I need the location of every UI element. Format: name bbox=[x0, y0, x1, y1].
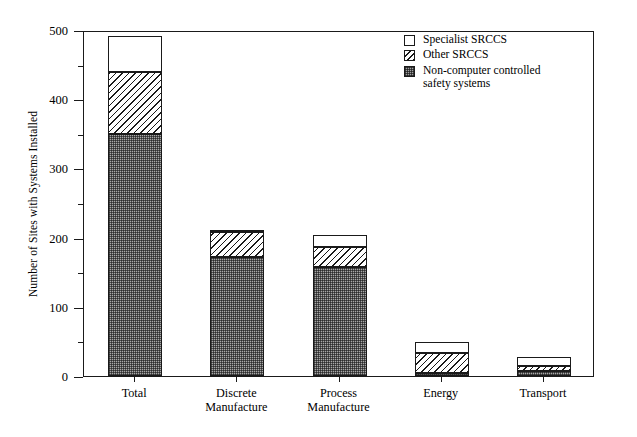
legend-label: Specialist SRCCS bbox=[423, 33, 507, 46]
bar-segment bbox=[415, 373, 469, 376]
legend-label: Non-computer controlled safety systems bbox=[423, 64, 541, 91]
y-axis-tick-label: 500 bbox=[22, 25, 68, 37]
x-axis-tick bbox=[339, 377, 340, 382]
stacked-bar bbox=[415, 342, 469, 376]
x-axis-tick-label: Transport bbox=[478, 386, 608, 400]
white-square-icon bbox=[404, 35, 415, 46]
y-axis-tick-label: 0 bbox=[22, 371, 68, 383]
y-axis-tick-label: 200 bbox=[22, 233, 68, 245]
bar-segment bbox=[517, 366, 571, 371]
y-axis-tick-major bbox=[74, 308, 83, 309]
bar-segment bbox=[313, 267, 367, 376]
hatched-square-icon bbox=[404, 50, 415, 61]
checkered-square-icon bbox=[404, 66, 415, 77]
stacked-bar bbox=[210, 231, 264, 376]
stacked-bar bbox=[517, 357, 571, 376]
legend-label: Other SRCCS bbox=[423, 48, 488, 61]
bar-segment bbox=[415, 342, 469, 353]
legend-entry: Specialist SRCCS bbox=[404, 33, 584, 46]
bar-segment bbox=[108, 36, 162, 71]
x-axis-tick bbox=[236, 377, 237, 382]
bar-segment bbox=[210, 257, 264, 376]
bar-segment bbox=[108, 72, 162, 134]
x-axis-tick bbox=[543, 377, 544, 382]
y-axis-tick-major bbox=[74, 377, 83, 378]
y-axis-tick-label: 300 bbox=[22, 163, 68, 175]
chart-figure: Number of Sites with Systems Installed 0… bbox=[0, 0, 637, 437]
y-axis-tick-label: 400 bbox=[22, 94, 68, 106]
bar-segment bbox=[108, 134, 162, 376]
chart-legend: Specialist SRCCSOther SRCCSNon-computer … bbox=[404, 33, 584, 93]
bar-segment bbox=[415, 353, 469, 373]
y-axis-tick-major bbox=[74, 239, 83, 240]
stacked-bar bbox=[313, 235, 367, 376]
y-axis-tick-major bbox=[74, 31, 83, 32]
legend-entry: Other SRCCS bbox=[404, 48, 584, 61]
bar-segment bbox=[517, 371, 571, 376]
y-axis-tick-label: 100 bbox=[22, 302, 68, 314]
x-axis-tick bbox=[134, 377, 135, 382]
bar-segment bbox=[313, 247, 367, 267]
y-axis-tick-major bbox=[74, 100, 83, 101]
x-axis-tick bbox=[441, 377, 442, 382]
bar-segment bbox=[210, 230, 264, 232]
y-axis-tick-major bbox=[74, 169, 83, 170]
bar-segment bbox=[210, 232, 264, 257]
bar-segment bbox=[313, 235, 367, 247]
legend-entry: Non-computer controlled safety systems bbox=[404, 64, 584, 91]
bar-segment bbox=[517, 357, 571, 367]
stacked-bar bbox=[108, 36, 162, 376]
y-axis-title: Number of Sites with Systems Installed bbox=[22, 31, 44, 377]
